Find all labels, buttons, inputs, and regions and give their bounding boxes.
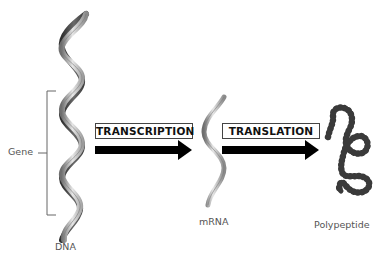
polypeptide-label: Polypeptide: [314, 219, 370, 230]
polypeptide-chain-icon: [328, 107, 369, 192]
transcription-label-box: TRANSCRIPTION: [95, 123, 193, 139]
gene-expression-diagram: TRANSCRIPTION TRANSLATION Gene DNA mRNA …: [0, 0, 382, 261]
gene-bracket: [38, 91, 56, 215]
dna-label: DNA: [55, 241, 76, 252]
gene-label: Gene: [8, 146, 33, 157]
translation-arrow-icon: [222, 140, 319, 160]
mrna-label: mRNA: [199, 216, 228, 227]
transcription-label: TRANSCRIPTION: [96, 125, 195, 137]
mrna-strand-icon: [204, 97, 224, 205]
dna-helix-icon: [62, 14, 86, 240]
transcription-arrow-icon: [95, 140, 192, 160]
translation-label-box: TRANSLATION: [222, 123, 320, 139]
translation-label: TRANSLATION: [229, 125, 314, 137]
